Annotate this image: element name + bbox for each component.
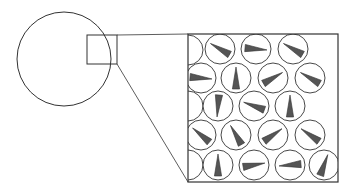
cell bbox=[221, 63, 251, 93]
cell bbox=[186, 63, 216, 93]
inset-cell-array bbox=[173, 34, 339, 180]
connector-bottom bbox=[117, 64, 188, 182]
cell bbox=[186, 120, 216, 150]
baseball bbox=[17, 12, 111, 106]
cell bbox=[241, 34, 271, 64]
cell bbox=[295, 63, 325, 93]
connector-top bbox=[117, 34, 188, 35]
cell bbox=[203, 91, 233, 121]
zoom-connector-lines bbox=[117, 34, 188, 182]
cell bbox=[295, 120, 325, 150]
cell bbox=[258, 63, 288, 93]
cell bbox=[205, 34, 235, 64]
cell bbox=[275, 150, 305, 180]
cell bbox=[309, 150, 339, 180]
baseball-outline bbox=[17, 12, 111, 106]
diagram-svg bbox=[0, 0, 354, 193]
diagram-canvas bbox=[0, 0, 354, 193]
cell bbox=[239, 150, 269, 180]
magnify-source-box bbox=[87, 35, 117, 64]
cell bbox=[258, 120, 288, 150]
cell bbox=[203, 150, 233, 180]
cell bbox=[221, 120, 251, 150]
cell bbox=[275, 91, 305, 121]
cell bbox=[239, 91, 269, 121]
cell bbox=[278, 34, 308, 64]
